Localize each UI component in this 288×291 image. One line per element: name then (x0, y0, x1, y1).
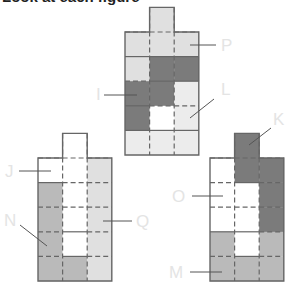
figure-diagram (0, 0, 288, 291)
figure-top-cell (150, 32, 175, 57)
figure-top-cell (150, 57, 175, 82)
figure-top-cell (125, 130, 150, 155)
figure-bottom-left-cell (63, 207, 88, 232)
figure-top-cell (150, 130, 175, 155)
label-k: K (273, 111, 284, 128)
figure-bottom-left-cell (38, 232, 63, 257)
figure-bottom-left-cell (87, 232, 112, 257)
figure-top-cell (174, 130, 199, 155)
figure-bottom-left-cell (87, 158, 112, 183)
figure-top-cell (125, 81, 150, 106)
figure-bottom-left-cell (87, 256, 112, 281)
figure-bottom-right-cell (210, 207, 235, 232)
figure-bottom-left-tab (63, 133, 88, 158)
figure-bottom-right-cell (235, 158, 260, 183)
figure-bottom-right-cell (235, 183, 260, 208)
label-p: P (221, 37, 232, 54)
figure-top-cell (174, 57, 199, 82)
figure-bottom-left-cell (38, 256, 63, 281)
label-q: Q (136, 213, 149, 230)
figure-top-cell (125, 57, 150, 82)
figure-bottom-left-cell (38, 158, 63, 183)
figure-top-cell (174, 32, 199, 57)
figure-top-cell (125, 106, 150, 131)
figure-bottom-right-cell (210, 256, 235, 281)
figure-bottom-left-cell (38, 183, 63, 208)
figure-bottom-right-cell (210, 232, 235, 257)
figure-bottom-left-cell (63, 158, 88, 183)
figure-top-cell (174, 106, 199, 131)
figure-bottom-right-cell (235, 256, 260, 281)
figure-top-cell (125, 32, 150, 57)
figure-bottom-right-cell (259, 158, 284, 183)
figure-bottom-right-cell (235, 232, 260, 257)
figure-bottom-right-cell (210, 183, 235, 208)
label-m: M (169, 264, 183, 281)
label-o: O (172, 188, 185, 205)
label-n: N (4, 212, 16, 229)
figure-bottom-left-cell (87, 183, 112, 208)
figure-bottom-right-cell (259, 256, 284, 281)
figure-bottom-left-cell (63, 232, 88, 257)
figure-bottom-right-cell (259, 183, 284, 208)
figure-bottom-right-cell (259, 207, 284, 232)
figure-bottom-left-cell (87, 207, 112, 232)
figure-bottom-right-tab (235, 133, 260, 158)
figure-top-cell (150, 106, 175, 131)
label-j: J (5, 163, 14, 180)
figure-bottom-right-cell (210, 158, 235, 183)
figure-bottom-left-cell (38, 207, 63, 232)
figure-bottom-right-cell (235, 207, 260, 232)
figure-bottom-left-cell (63, 183, 88, 208)
label-l: L (221, 81, 230, 98)
figure-top-cell (150, 81, 175, 106)
figure-bottom-left-cell (63, 256, 88, 281)
figure-top-tab (150, 7, 175, 32)
figure-bottom-right-cell (259, 232, 284, 257)
label-i: I (96, 86, 101, 103)
figure-top-cell (174, 81, 199, 106)
